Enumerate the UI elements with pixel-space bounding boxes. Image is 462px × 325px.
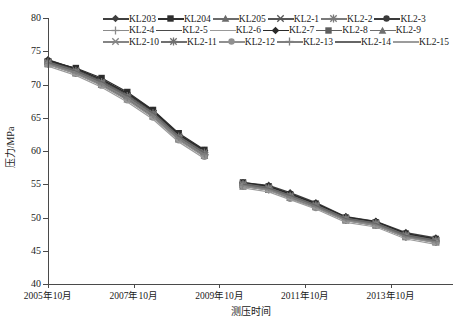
legend-item-kl2-11[interactable]: KL2-11	[161, 36, 219, 48]
legend-swatch-icon	[374, 13, 400, 24]
data-point	[112, 26, 120, 34]
legend-marker-icon	[270, 25, 281, 36]
legend-label: KL2-14	[361, 37, 393, 47]
data-point	[330, 15, 338, 23]
legend-item-kl2-4[interactable]: KL2-4	[103, 25, 156, 37]
y-tick-label-text: 70	[11, 80, 41, 90]
legend-item-kl2-2[interactable]: KL2-2	[321, 13, 374, 25]
legend-item-kl2-5[interactable]: KL2-5	[156, 25, 209, 37]
legend-label: KL2-5	[182, 25, 209, 35]
legend-label: KL2-3	[400, 14, 427, 24]
legend-line-icon	[335, 41, 361, 43]
x-tick-label: 2009年10月	[195, 288, 244, 302]
legend-item-kl2-13[interactable]: KL2-13	[277, 36, 335, 48]
legend-row: KL203KL204KL205KL2-1KL2-2KL2-3	[103, 13, 453, 25]
legend-marker-icon	[284, 36, 295, 47]
data-point	[112, 39, 118, 45]
legend-label: KL205	[239, 14, 268, 24]
legend-label: KL2-2	[347, 14, 374, 24]
legend-item-kl2-9[interactable]: KL2-9	[370, 25, 423, 37]
legend-item-kl2-7[interactable]: KL2-7	[263, 25, 316, 37]
legend-marker-icon	[220, 13, 231, 24]
data-point	[378, 26, 386, 33]
y-axis-title: 压力/MPa	[2, 112, 17, 184]
legend-item-kl2-10[interactable]: KL2-10	[103, 36, 161, 48]
legend-item-kl2-12[interactable]: KL2-12	[219, 36, 277, 48]
data-point	[222, 15, 230, 22]
legend-item-kl204[interactable]: KL204	[158, 13, 213, 25]
legend-label: KL204	[184, 14, 213, 24]
data-point	[228, 39, 234, 45]
legend-label: KL2-15	[419, 37, 451, 47]
data-point	[326, 27, 332, 33]
series-line	[48, 66, 204, 158]
legend-marker-icon	[110, 13, 121, 24]
y-tick-label: 80	[0, 13, 48, 23]
legend-label: KL2-6	[236, 25, 263, 35]
legend-row: KL2-4KL2-5KL2-6KL2-7KL2-8KL2-9	[103, 25, 453, 37]
series-KL2-14	[48, 62, 436, 240]
legend-swatch-icon	[277, 36, 303, 47]
legend-item-kl2-1[interactable]: KL2-1	[268, 13, 321, 25]
legend-marker-icon	[275, 13, 286, 24]
x-tick-label: 2013年10月	[367, 288, 416, 302]
legend-swatch-icon	[158, 13, 184, 24]
legend-swatch-icon	[103, 25, 129, 36]
data-point	[277, 16, 283, 22]
legend-marker-icon	[110, 36, 121, 47]
legend-label: KL2-8	[342, 25, 369, 35]
data-point	[167, 16, 173, 22]
chart-root: 404550556065707580 2005年10月2007年10月2009年…	[0, 0, 462, 325]
legend-label: KL2-1	[294, 14, 321, 24]
legend-label: KL2-12	[245, 37, 277, 47]
legend-item-kl203[interactable]: KL203	[103, 13, 158, 25]
y-axis-line	[48, 18, 49, 284]
legend-item-kl2-8[interactable]: KL2-8	[316, 25, 369, 37]
legend-swatch-icon	[213, 13, 239, 24]
data-point	[285, 38, 293, 46]
legend-item-kl2-14[interactable]: KL2-14	[335, 36, 393, 48]
legend-swatch-icon	[393, 36, 419, 47]
legend-marker-icon	[110, 25, 121, 36]
legend-item-kl2-3[interactable]: KL2-3	[374, 13, 427, 25]
y-tick-label-text: 75	[11, 46, 41, 56]
legend-swatch-icon	[103, 36, 129, 47]
legend-swatch-icon	[268, 13, 294, 24]
legend-marker-icon	[377, 25, 388, 36]
plot-canvas	[0, 0, 462, 325]
y-tick-label-text: 50	[11, 213, 41, 223]
legend-label: KL2-7	[289, 25, 316, 35]
legend-swatch-icon	[316, 25, 342, 36]
y-tick-label: 50	[0, 213, 48, 223]
legend-marker-icon	[165, 13, 176, 24]
legend-label: KL203	[129, 14, 158, 24]
y-tick-label-text: 45	[11, 246, 41, 256]
legend-item-kl2-15[interactable]: KL2-15	[393, 36, 451, 48]
series-KL2-6	[48, 64, 436, 242]
legend-swatch-icon	[156, 25, 182, 36]
data-point	[272, 26, 280, 34]
legend-label: KL2-11	[187, 37, 219, 47]
x-tick-label: 2007年10月	[109, 288, 158, 302]
legend-swatch-icon	[219, 36, 245, 47]
legend-marker-icon	[168, 36, 179, 47]
legend-label: KL2-10	[129, 37, 161, 47]
legend-swatch-icon	[263, 25, 289, 36]
y-tick-label-text: 80	[11, 13, 41, 23]
legend-marker-icon	[226, 36, 237, 47]
legend-marker-icon	[328, 13, 339, 24]
data-point	[384, 16, 390, 22]
x-tick-label: 2011年10月	[281, 288, 329, 302]
legend-swatch-icon	[103, 13, 129, 24]
legend-line-icon	[156, 30, 182, 32]
legend-line-icon	[210, 30, 236, 32]
y-tick-label: 45	[0, 246, 48, 256]
legend-item-kl205[interactable]: KL205	[213, 13, 268, 25]
legend-label: KL2-4	[129, 25, 156, 35]
legend-swatch-icon	[210, 25, 236, 36]
legend-swatch-icon	[370, 25, 396, 36]
data-point	[112, 15, 120, 23]
y-tick-label: 75	[0, 46, 48, 56]
legend-item-kl2-6[interactable]: KL2-6	[210, 25, 263, 37]
x-axis-title: 测压时间	[48, 303, 453, 318]
